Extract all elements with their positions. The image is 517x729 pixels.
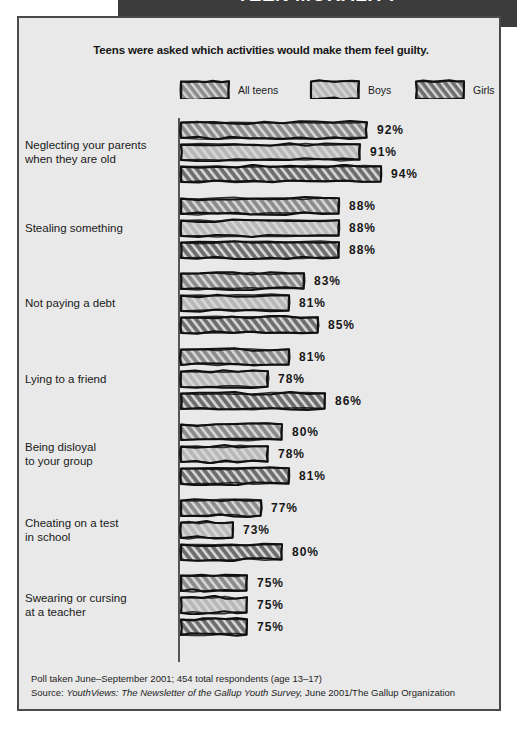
legend-item-all-teens: All teens	[179, 76, 278, 104]
bar-3-girls	[179, 391, 327, 411]
bar-value-label: 86%	[335, 394, 362, 408]
bar-5-girls	[179, 542, 284, 562]
category-label-line: at a teacher	[25, 605, 175, 619]
bar-5-all-teens	[179, 498, 263, 518]
category-label-0: Neglecting your parentswhen they are old	[25, 138, 175, 166]
bar-value-label: 75%	[257, 576, 284, 590]
legend-item-girls: Girls	[414, 76, 495, 104]
plot-area: Neglecting your parentswhen they are old…	[19, 114, 503, 669]
chart-legend: All teensBoysGirls	[19, 76, 503, 104]
bar-value-label: 92%	[377, 123, 404, 137]
bar-6-boys	[179, 595, 249, 615]
category-label-1: Stealing something	[25, 221, 175, 235]
footnote-line-2: Source: YouthViews: The Newsletter of th…	[31, 686, 501, 700]
category-label-line: Not paying a debt	[25, 296, 175, 310]
legend-swatch-girls	[414, 79, 466, 101]
category-label-line: Being disloyal	[25, 440, 175, 454]
category-label-5: Cheating on a testin school	[25, 516, 175, 544]
category-label-line: in school	[25, 530, 175, 544]
bar-value-label: 88%	[349, 221, 376, 235]
bar-4-all-teens	[179, 422, 284, 442]
bar-1-boys	[179, 218, 341, 238]
bar-2-all-teens	[179, 271, 306, 291]
legend-swatch-boys	[309, 79, 361, 101]
bar-value-label: 81%	[299, 469, 326, 483]
bar-3-boys	[179, 369, 270, 389]
bar-value-label: 88%	[349, 199, 376, 213]
footnote-line-1: Poll taken June–September 2001; 454 tota…	[31, 672, 501, 686]
chart-footnote: Poll taken June–September 2001; 454 tota…	[31, 672, 501, 699]
chart-page: TEEN MORALITY Teens were asked which act…	[0, 0, 517, 729]
bar-0-all-teens	[179, 120, 369, 140]
category-label-line: Stealing something	[25, 221, 175, 235]
bar-value-label: 85%	[328, 318, 355, 332]
chart-subtitle: Teens were asked which activities would …	[19, 44, 503, 56]
category-label-3: Lying to a friend	[25, 372, 175, 386]
bar-value-label: 78%	[278, 372, 305, 386]
chart-panel: Teens were asked which activities would …	[17, 16, 501, 711]
category-label-line: Lying to a friend	[25, 372, 175, 386]
bar-value-label: 81%	[299, 296, 326, 310]
bar-6-all-teens	[179, 573, 249, 593]
bar-6-girls	[179, 617, 249, 637]
bar-value-label: 83%	[314, 274, 341, 288]
bar-2-boys	[179, 293, 291, 313]
bar-value-label: 73%	[243, 523, 270, 537]
bar-value-label: 94%	[391, 167, 418, 181]
legend-label-girls: Girls	[473, 84, 495, 96]
category-label-4: Being disloyalto your group	[25, 440, 175, 468]
bar-0-boys	[179, 142, 362, 162]
bar-value-label: 80%	[292, 545, 319, 559]
legend-label-boys: Boys	[368, 84, 391, 96]
category-label-line: to your group	[25, 454, 175, 468]
legend-item-boys: Boys	[309, 76, 391, 104]
bar-value-label: 75%	[257, 598, 284, 612]
banner-title: TEEN MORALITY	[118, 0, 517, 6]
bar-value-label: 81%	[299, 350, 326, 364]
bar-5-boys	[179, 520, 235, 540]
category-label-6: Swearing or cursingat a teacher	[25, 591, 175, 619]
category-label-line: Neglecting your parents	[25, 138, 175, 152]
footnote-source-prefix: Source:	[31, 687, 66, 698]
category-label-line: Swearing or cursing	[25, 591, 175, 605]
legend-label-all-teens: All teens	[238, 84, 278, 96]
bar-value-label: 77%	[271, 501, 298, 515]
bar-4-boys	[179, 444, 270, 464]
bar-value-label: 78%	[278, 447, 305, 461]
bar-value-label: 75%	[257, 620, 284, 634]
bar-value-label: 88%	[349, 243, 376, 257]
bar-value-label: 80%	[292, 425, 319, 439]
bar-3-all-teens	[179, 347, 291, 367]
category-label-line: Cheating on a test	[25, 516, 175, 530]
bar-0-girls	[179, 164, 383, 184]
footnote-source-suffix: June 2001/The Gallup Organization	[302, 687, 455, 698]
bar-2-girls	[179, 315, 320, 335]
category-label-2: Not paying a debt	[25, 296, 175, 310]
bar-1-all-teens	[179, 196, 341, 216]
category-label-line: when they are old	[25, 152, 175, 166]
bar-4-girls	[179, 466, 291, 486]
bar-value-label: 91%	[370, 145, 397, 159]
bar-1-girls	[179, 240, 341, 260]
legend-swatch-all-teens	[179, 79, 231, 101]
footnote-source-title: YouthViews: The Newsletter of the Gallup…	[66, 687, 302, 698]
